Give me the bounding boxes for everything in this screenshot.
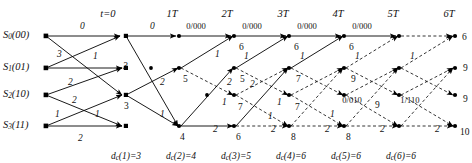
time-label-1: 1T [166,9,177,20]
io-label-3: 0/000 [242,22,262,31]
node-metric-13: 9 [375,101,380,111]
state-label-1: S1(01) [3,62,29,73]
branch-label-12: 1 [244,52,249,62]
branch-label-19: 1 [330,110,335,120]
time-label-6: 6T [443,9,454,20]
branch-label-16: 1 [300,52,305,62]
branch-label-7: 1 [160,110,165,120]
node-metric-14: 8 [346,133,351,143]
io-label-25: 1/110 [400,96,419,105]
initial-branch-label-3: 2 [68,78,73,88]
node-metric-4: 5 [240,75,245,85]
node-metric-15: 6 [462,33,467,43]
branch-label-20: 1 [355,52,360,62]
node-metric-10: 8 [291,133,296,143]
node-metric-7: 6 [294,43,299,53]
time-label-0: t=0 [100,9,115,20]
initial-branch-label-1: 3 [57,50,62,60]
branch-label-0: 0 [150,22,155,32]
branch-label-21: 2 [380,125,385,135]
state-label-0: S0(00) [3,30,29,41]
time-label-2: 2T [221,9,232,20]
node-metric-12: 9 [351,75,356,85]
io-label-2: 0/000 [186,22,206,31]
branch-label-14: 2 [271,125,276,135]
state-label-3: S3(11) [3,120,29,131]
branch-label-10: 1 [222,98,227,108]
dc-label-2: dc(3)=5 [221,152,251,162]
io-label-24: 0/010 [342,96,362,105]
node-metric-5: 7 [238,103,243,113]
trellis-edges-stage7-dashed [401,36,453,126]
node-metric-18: 10 [460,128,470,138]
branch-label-1: 3 [123,62,128,72]
branch-label-13: 2 [250,80,255,90]
initial-branch-label-7: 2 [78,134,83,144]
time-label-5: 5T [387,9,398,20]
initial-branch-label-4: 2 [72,96,77,106]
branch-label-9: 2 [227,78,232,88]
branch-label-22: 1 [410,52,415,62]
initial-branch-label-2: 1 [93,52,98,62]
time-label-4: 4T [332,9,343,20]
dc-label-3: dc(4)=6 [276,152,306,162]
dc-label-1: dc(2)=4 [166,152,196,162]
branch-label-11: 2 [213,125,218,135]
io-label-4: 0/000 [297,22,317,31]
branch-label-17: 1 [268,112,273,122]
branch-label-15: 1 [277,98,282,108]
trellis-edges-stage5 [291,36,396,68]
trellis-figure: t=01T2T3T4T5T6T S0(00)S1(01)S2(10)S3(11)… [0,0,472,163]
branch-label-18: 2 [325,125,330,135]
branch-label-23: 2 [435,125,440,135]
initial-branch-label-0: 0 [80,22,85,32]
node-metric-3: 6 [239,43,244,53]
node-metric-8: 7 [296,75,301,85]
time-label-3: 3T [277,9,288,20]
initial-branch-label-5: 1 [55,110,60,120]
dc-label-5: dc(6)=6 [386,152,416,162]
node-metric-11: 6 [349,43,354,53]
node-metric-9: 7 [295,103,300,113]
node-metric-0: 3 [124,102,129,112]
state-label-2: S2(10) [3,89,29,100]
node-metric-1: 5 [183,75,188,85]
node-metric-17: 9 [463,95,468,105]
branch-label-6: 2 [160,78,165,88]
trellis-edges-stage3-dashed [181,68,233,95]
dc-label-0: dc(1)=3 [111,152,141,162]
dc-label-4: dc(5)=6 [331,152,361,162]
io-label-5: 0/000 [352,22,372,31]
node-metric-2: 4 [180,133,185,143]
initial-branch-label-6: 1 [95,110,100,120]
node-metric-6: 6 [236,133,241,143]
branch-label-8: 1 [215,50,220,60]
node-metric-16: 9 [463,64,468,74]
